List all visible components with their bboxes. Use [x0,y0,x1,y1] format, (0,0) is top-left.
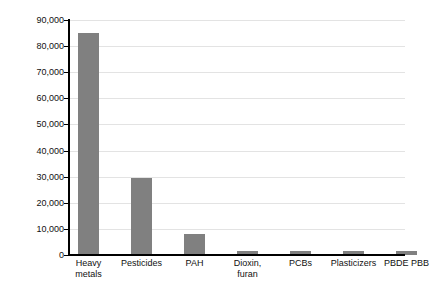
y-axis-tick-mark [64,229,69,230]
y-axis-tick-label: 70,000 [22,67,64,77]
y-axis-tick-label: 10,000 [22,224,64,234]
y-axis-tick-mark [64,20,69,21]
x-axis-category-labels: HeavymetalsPesticidesPAHDioxin,furanPCBs… [70,258,415,292]
x-axis-category-label-line: PBDE PBB [375,258,434,269]
bar [78,33,99,255]
y-axis-tick-mark [64,203,69,204]
y-axis-tick-label: 80,000 [22,41,64,51]
y-axis-tick-mark [64,124,69,125]
y-axis-tick-label: 90,000 [22,15,64,25]
y-axis-tick-mark [64,177,69,178]
bar [131,178,152,255]
y-axis-tick-label: 40,000 [22,146,64,156]
y-axis-tick-label: 60,000 [22,93,64,103]
y-axis-tick-label: 20,000 [22,198,64,208]
y-axis-tick-mark [64,46,69,47]
x-axis-category-label-line: furan [216,269,280,280]
x-axis-line [68,254,405,256]
bars-layer [70,20,405,255]
y-axis-tick-label: 30,000 [22,172,64,182]
y-axis-line [68,19,70,256]
y-axis-tick-mark [64,72,69,73]
y-axis-tick-labels: 010,00020,00030,00040,00050,00060,00070,… [24,20,68,255]
y-axis-tick-mark [64,98,69,99]
x-axis-category-label-line: metals [57,269,121,280]
y-axis-tick-label: 50,000 [22,119,64,129]
bar [184,234,205,255]
x-axis-category-label: PBDE PBB [375,258,434,269]
y-axis-tick-mark [64,255,69,256]
y-axis-tick-mark [64,151,69,152]
